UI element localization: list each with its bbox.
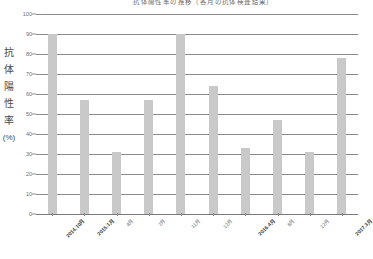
x-axis-tick-mark [342, 213, 343, 216]
x-axis-tick-label: 8月 [285, 217, 295, 227]
y-axis-tick-mark [32, 134, 36, 135]
y-axis-tick-label: 40 [14, 131, 32, 137]
y-axis-tick-label: 10 [14, 191, 32, 197]
x-axis-tick-label: 11月 [189, 217, 201, 229]
y-axis-tick-label: 50 [14, 111, 32, 117]
y-axis-tick-mark [32, 94, 36, 95]
y-axis-tick-mark [32, 74, 36, 75]
gridline [36, 34, 358, 35]
bar[interactable] [112, 152, 121, 214]
y-axis-tick-label: 60 [14, 91, 32, 97]
y-axis-tick-label: 30 [14, 151, 32, 157]
y-axis-tick-label: 80 [14, 51, 32, 57]
y-axis-tick-label: 70 [14, 71, 32, 77]
x-axis-tick-mark [213, 213, 214, 216]
y-axis-tick-label: 20 [14, 171, 32, 177]
chart-title: 抗体陽性率の推移（各月の抗体検査結果） [46, 0, 361, 7]
y-axis-tick-mark [32, 114, 36, 115]
bar[interactable] [273, 120, 282, 214]
x-axis-tick-mark [84, 213, 85, 216]
x-axis-tick-mark [149, 213, 150, 216]
y-axis-tick-mark [32, 154, 36, 155]
x-axis-tick-mark [52, 213, 53, 216]
y-axis-tick-label: 100 [14, 11, 32, 17]
bar[interactable] [209, 86, 218, 214]
y-axis-tick-mark [32, 194, 36, 195]
bar[interactable] [144, 100, 153, 214]
x-axis-tick-label: 7月 [156, 217, 166, 227]
bar[interactable] [305, 152, 314, 214]
x-axis-tick-label: 4月 [124, 217, 134, 227]
y-axis-tick-mark [32, 174, 36, 175]
x-axis-tick-label: 12月 [318, 217, 330, 229]
x-axis-tick-mark [310, 213, 311, 216]
bar[interactable] [337, 58, 346, 214]
bar[interactable] [176, 34, 185, 214]
x-axis-tick-label: 2017.3月 [353, 217, 373, 237]
bar[interactable] [48, 34, 57, 214]
x-axis-tick-label: 2015.1月 [95, 217, 115, 237]
gridline [36, 74, 358, 75]
plot-area: 0102030405060708090100 [36, 14, 358, 214]
y-axis-tick-mark [32, 34, 36, 35]
bar[interactable] [241, 148, 250, 214]
bar[interactable] [80, 100, 89, 214]
y-axis-title-char: 性 [2, 95, 16, 112]
gridline [36, 54, 358, 55]
x-axis-tick-label: 12月 [221, 217, 233, 229]
x-axis-tick-mark [278, 213, 279, 216]
x-axis-tick-label: 2014.10月 [64, 217, 86, 239]
x-axis-tick-mark [117, 213, 118, 216]
x-axis-tick-label: 2016.4月 [256, 217, 276, 237]
gridline [36, 94, 358, 95]
y-axis-tick-mark [32, 54, 36, 55]
x-axis-tick-mark [245, 213, 246, 216]
x-axis-tick-mark [181, 213, 182, 216]
y-axis-tick-mark [32, 14, 36, 15]
gridline [36, 14, 358, 15]
x-axis-label-group: 2014.10月2015.1月4月7月11月12月2016.4月8月12月201… [36, 215, 358, 259]
y-axis-tick-label: 0 [14, 211, 32, 217]
y-axis-tick-label: 90 [14, 31, 32, 37]
